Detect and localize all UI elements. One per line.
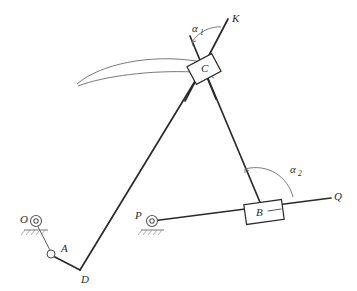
label-b: B — [256, 206, 263, 218]
label-alpha-1-subscript: 1 — [200, 28, 204, 37]
label-d: D — [80, 273, 89, 285]
fixed-pivot-p — [138, 216, 164, 236]
label-q: Q — [334, 190, 342, 202]
label-k: K — [231, 12, 240, 24]
label-alpha-1: α — [192, 22, 198, 34]
label-alpha-2: α — [290, 163, 296, 175]
label-alpha-2-subscript: 2 — [298, 169, 302, 178]
joint-a — [47, 250, 55, 258]
label-c: C — [201, 62, 209, 74]
guide-line-pq — [152, 198, 331, 221]
label-p: P — [134, 209, 142, 221]
link-d-c — [80, 73, 200, 270]
label-o: O — [20, 213, 28, 225]
slider-block-b — [244, 199, 284, 224]
link-a-d — [53, 256, 80, 270]
label-a: A — [60, 242, 68, 254]
mechanism-diagram: O A D C K B P Q α 1 α 2 — [0, 0, 357, 291]
link-o-a — [36, 223, 51, 252]
mechanism-canvas: O A D C K B P Q α 1 α 2 — [0, 0, 357, 291]
